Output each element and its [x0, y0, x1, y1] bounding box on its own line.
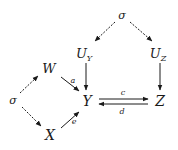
node-y: Y: [82, 93, 93, 109]
edge-sigma-to-uy: [95, 22, 115, 41]
edge-sigma-to-uz: [130, 22, 152, 41]
edge-sigma-to-w: [20, 76, 38, 93]
edge-label-e: e: [72, 117, 77, 126]
node-x: X: [44, 127, 56, 143]
edge-label-d: d: [119, 107, 124, 116]
edge-sigma-to-x: [22, 107, 41, 126]
edge-label-c: c: [121, 88, 126, 97]
edge-label-a: a: [71, 76, 76, 85]
node-u-y: UY: [76, 46, 93, 63]
node-w: W: [42, 61, 57, 76]
node-u-z: UZ: [150, 46, 167, 63]
node-z: Z: [154, 93, 165, 109]
node-sigma-left: σ: [9, 94, 17, 107]
causal-diagram: σ UY UZ W Y Z σ X a e c d: [0, 0, 178, 150]
node-sigma-top: σ: [118, 9, 126, 22]
